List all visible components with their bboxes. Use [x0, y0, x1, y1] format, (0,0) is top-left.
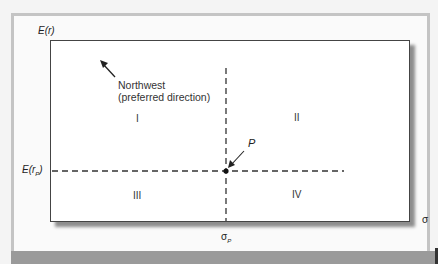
expected-return-p-label-main: E(r [22, 164, 35, 175]
sigma-p-label: σP [221, 231, 231, 244]
northwest-annotation: Northwest (preferred direction) [118, 79, 210, 103]
northwest-arrow-icon [100, 60, 115, 77]
quadrant-i-label: I [136, 113, 139, 124]
diagram-lines [0, 0, 438, 264]
annotation-line-2: (preferred direction) [118, 91, 210, 103]
quadrant-iii-label: III [133, 190, 141, 201]
y-axis-label: E(r) [38, 25, 55, 36]
x-axis-label: σ [422, 214, 428, 225]
quadrant-iv-label: IV [292, 189, 301, 200]
point-p-dot [223, 168, 228, 173]
quadrant-ii-label: II [294, 112, 300, 123]
expected-return-p-label-end: ) [39, 164, 42, 175]
arrow-to-p-icon [228, 151, 244, 168]
sigma-p-label-sub: P [227, 238, 231, 244]
expected-return-p-label: E(rP) [22, 164, 43, 177]
annotation-line-1: Northwest [118, 79, 210, 91]
point-p-label: P [248, 137, 255, 149]
